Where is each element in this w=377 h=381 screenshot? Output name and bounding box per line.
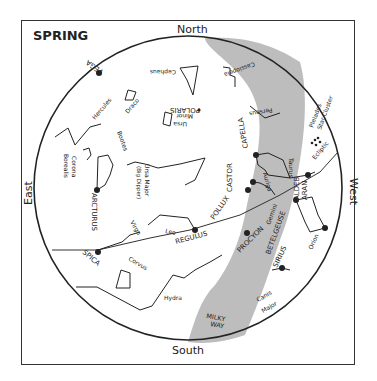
- label-draco: Draco: [123, 96, 140, 114]
- label-pollux: POLLUX: [209, 194, 231, 221]
- label-ecliptic: Ecliptic: [310, 140, 330, 162]
- label-castor: CASTOR: [226, 163, 234, 192]
- label-taurus: Taurus: [288, 157, 295, 178]
- label-ursa-minor-1: Ursa: [173, 121, 187, 128]
- label-arcturus: ARCTURUS: [90, 193, 98, 232]
- label-ursa-minor-2: Minor: [176, 113, 193, 120]
- label-bootes: Bootes: [116, 130, 130, 152]
- label-ursa-major-1: Ursa Major: [143, 164, 151, 197]
- label-hercules: Hercules: [90, 96, 112, 121]
- direction-north: North: [177, 23, 208, 36]
- label-orion: Orion: [307, 232, 320, 250]
- label-virgo: Virgo: [128, 219, 143, 237]
- label-corvus: Corvus: [128, 255, 150, 271]
- label-corona-2: Borealis: [63, 154, 70, 178]
- chart-title: SPRING: [33, 28, 88, 43]
- label-cephaus: Cephaus: [150, 68, 176, 76]
- direction-east: East: [22, 181, 35, 205]
- label-capella: CAPELLA: [237, 117, 250, 149]
- direction-south: South: [172, 344, 204, 357]
- label-ursa-major-2: (Big Dipper): [135, 166, 142, 199]
- label-corona-1: Corona: [71, 156, 78, 178]
- star-chart: SPRING North South East West VEGA POLARI…: [0, 0, 377, 381]
- direction-west: West: [347, 178, 360, 206]
- label-aldebaran-2: ARAN: [301, 181, 309, 200]
- label-aldebaran-1: ALDEB: [293, 176, 301, 200]
- label-polaris: POLARIS: [169, 106, 200, 114]
- label-hydra: Hydra: [164, 294, 182, 302]
